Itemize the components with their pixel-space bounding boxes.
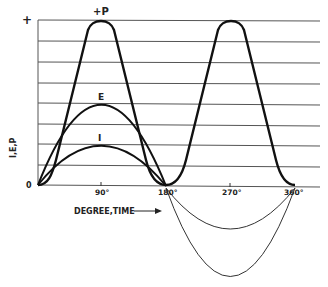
y-axis-label: I,E,P <box>9 137 18 158</box>
x-axis-label: DEGREE,TIME <box>74 207 135 216</box>
tick-label-180: 180° <box>158 188 178 197</box>
tick-label-90: 90° <box>95 188 109 197</box>
label-zero: 0 <box>26 181 32 190</box>
tick-label-270: 270° <box>222 188 242 197</box>
label-i: I <box>98 133 101 143</box>
label-plus: + <box>22 13 32 27</box>
label-e: E <box>98 92 104 102</box>
waveform-diagram: +P E I + 0 I,E,P DEGREE,TIME 90° 180° 27… <box>0 0 328 287</box>
voltage-negative-half <box>166 188 295 277</box>
tick-label-360: 360° <box>284 188 304 197</box>
arrow-icon <box>134 208 162 214</box>
label-plus-p: +P <box>93 6 109 17</box>
